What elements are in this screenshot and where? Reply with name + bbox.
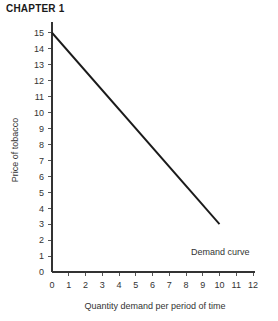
series-group [52, 33, 220, 224]
y-tick-label: 10 [34, 108, 44, 118]
x-tick-label: 9 [200, 280, 205, 290]
x-tick-label: 1 [66, 280, 71, 290]
annotation-group: Demand curve [191, 247, 250, 257]
y-tick-label: 0 [39, 267, 44, 277]
x-tick-label: 10 [214, 280, 224, 290]
y-tick-label: 15 [34, 28, 44, 38]
x-tick-label: 6 [150, 280, 155, 290]
y-axis-title: Price of tobacco [10, 118, 20, 183]
y-tick-label: 6 [39, 172, 44, 182]
y-axis-ticks: 0123456789101112131415 [34, 28, 52, 277]
x-tick-label: 11 [232, 280, 241, 290]
y-tick-label: 12 [34, 76, 44, 86]
x-tick-label: 5 [133, 280, 138, 290]
y-tick-label: 2 [39, 235, 44, 245]
x-axis-ticks: 0123456789101112 [49, 272, 258, 290]
y-tick-label: 4 [39, 204, 44, 214]
y-tick-label: 9 [39, 124, 44, 134]
x-tick-label: 7 [167, 280, 172, 290]
y-tick-label: 7 [39, 156, 44, 166]
y-tick-label: 8 [39, 140, 44, 150]
y-tick-label: 14 [34, 44, 44, 54]
x-tick-label: 12 [248, 280, 258, 290]
demand-curve-chart: 0123456789101112131415 0123456789101112 … [0, 0, 278, 321]
figure-container: CHAPTER 1 0123456789101112131415 0123456… [0, 0, 278, 321]
x-tick-label: 3 [100, 280, 105, 290]
demand-curve-line [52, 33, 220, 224]
x-tick-label: 8 [183, 280, 188, 290]
x-axis-title: Quantity demand per period of time [84, 301, 225, 311]
x-tick-label: 4 [116, 280, 121, 290]
x-tick-label: 0 [49, 280, 54, 290]
y-tick-label: 3 [39, 219, 44, 229]
y-tick-label: 11 [35, 92, 44, 102]
demand-curve-annotation: Demand curve [191, 247, 250, 257]
y-tick-label: 13 [34, 60, 44, 70]
y-tick-label: 5 [39, 188, 44, 198]
x-tick-label: 2 [83, 280, 88, 290]
y-tick-label: 1 [39, 251, 44, 261]
